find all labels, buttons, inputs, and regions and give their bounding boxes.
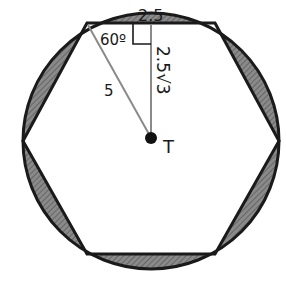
center-point [145, 132, 157, 144]
angle-label: 60º [100, 31, 126, 49]
half-side-label: 2.5 [138, 6, 163, 25]
radius-label: 5 [104, 82, 114, 100]
apothem-label: 2.5√3 [153, 46, 173, 95]
center-label: T [162, 136, 175, 157]
hexagon-in-circle-diagram: 2.5 60º 5 2.5√3 T [0, 0, 286, 290]
